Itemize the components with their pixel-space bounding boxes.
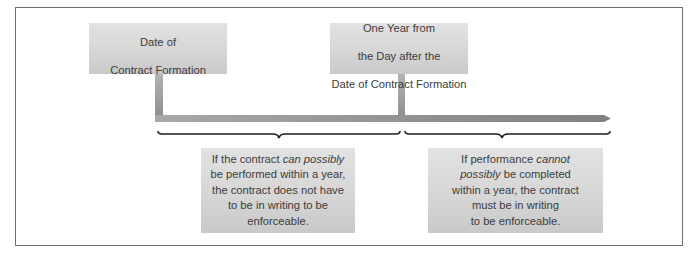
outcome-text-italic: can possibly bbox=[283, 153, 345, 165]
marker-line: Contract Formation bbox=[110, 64, 206, 76]
timeline-stem-start bbox=[155, 73, 163, 122]
outcome-text: If the contract can possibly be performe… bbox=[211, 152, 346, 230]
brace-beyond-year bbox=[405, 131, 610, 138]
outcome-within-year: If the contract can possibly be performe… bbox=[201, 148, 355, 233]
marker-label: One Year from the Day after the Date of … bbox=[332, 7, 467, 91]
outcome-text-plain: If the contract bbox=[212, 153, 283, 165]
marker-label: Date of Contract Formation bbox=[110, 21, 206, 77]
marker-line: Date of bbox=[140, 36, 176, 48]
marker-line: One Year from bbox=[363, 22, 435, 34]
marker-line: Date of Contract Formation bbox=[332, 78, 467, 90]
marker-one-year: One Year from the Day after the Date of … bbox=[330, 23, 468, 74]
timeline-arrow bbox=[155, 115, 611, 122]
marker-line: the Day after the bbox=[358, 50, 441, 62]
outcome-text-plain: be performed within a year, the contract… bbox=[211, 168, 346, 227]
outcome-text-plain: If performance bbox=[461, 153, 536, 165]
outcome-beyond-year: If performance cannot possibly be comple… bbox=[428, 148, 603, 233]
outcome-text: If performance cannot possibly be comple… bbox=[452, 152, 579, 230]
marker-contract-formation: Date of Contract Formation bbox=[89, 23, 227, 74]
brace-within-year bbox=[158, 131, 400, 138]
